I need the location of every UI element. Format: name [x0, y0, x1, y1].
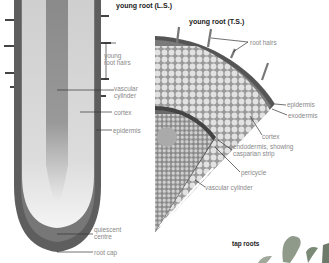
ts-epidermis-label: epidermis	[287, 101, 315, 108]
ls-root-cap-label: root cap	[94, 249, 117, 256]
ts-vascular-cylinder-label: vascular cylinder	[205, 184, 253, 191]
ts-root-hairs-label: root hairs	[250, 39, 277, 46]
tap-roots-title: tap roots	[232, 240, 259, 247]
ls-cortex-label: cortex	[114, 109, 131, 116]
ls-root-hairs-label-2: root hairs	[104, 59, 131, 66]
ls-epidermis-label: epidermis	[113, 127, 141, 134]
ts-pericycle-label: pericycle	[241, 169, 266, 176]
longitudinal-section	[4, 0, 116, 252]
tap-root-plants	[258, 236, 329, 263]
ls-root-hairs-label-1: young	[104, 52, 121, 59]
ls-quiescent-label-1: quiescent	[94, 226, 121, 233]
ts-cortex-label: cortex	[262, 133, 279, 140]
root-diagram-graphics	[0, 0, 329, 263]
ts-exodermis-label: exodermis	[288, 112, 317, 119]
ls-title: young root (L.S.)	[116, 2, 172, 9]
ls-quiescent-label-2: centre	[94, 233, 112, 240]
ls-vascular-label-2: cylinder	[114, 92, 136, 99]
ls-vascular-label-1: vascular	[114, 85, 138, 92]
transverse-section	[155, 27, 287, 236]
ts-title: young root (T.S.)	[189, 18, 244, 25]
ts-endodermis-label-1: endodermis, showing	[233, 143, 293, 150]
ts-endodermis-label-2: casparian strip	[233, 150, 275, 157]
